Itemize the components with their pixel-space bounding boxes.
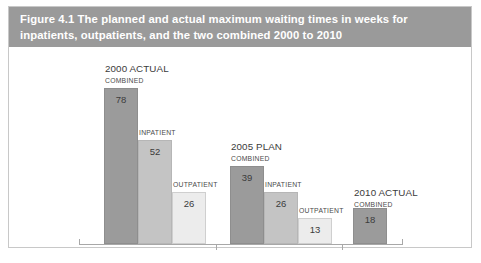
series-label-g1-combined: COMBINED (105, 77, 144, 84)
bar-2000-actual-combined[interactable]: 78 (104, 88, 138, 244)
bar-2010-actual-combined[interactable]: 18 (353, 208, 387, 244)
bar-value-2010-actual-combined: 18 (354, 214, 386, 225)
bar-2005-plan-combined[interactable]: 39 (230, 166, 264, 244)
x-axis-tick-start (79, 239, 80, 244)
figure-frame: Figure 4.1 The planned and actual maximu… (8, 6, 472, 248)
series-label-g2-combined: COMBINED (231, 155, 270, 162)
bar-value-2005-plan-combined: 39 (231, 172, 263, 183)
x-axis-tick-group2-group3 (342, 245, 343, 250)
series-label-g3-combined: COMBINED (354, 201, 393, 208)
x-axis-line (79, 244, 403, 245)
figure-caption-band: Figure 4.1 The planned and actual maximu… (9, 7, 471, 47)
figure-caption-text: Figure 4.1 The planned and actual maximu… (20, 12, 461, 43)
group-label-2010-actual: 2010 ACTUAL (354, 187, 418, 198)
bar-value-2005-plan-inpatient: 26 (265, 198, 297, 209)
bar-value-2000-actual-outpatient: 26 (173, 198, 205, 209)
series-label-g2-inpatient: INPATIENT (265, 181, 302, 188)
series-label-g1-outpatient: OUTPATIENT (173, 181, 218, 188)
x-axis-tick-group1-group2 (216, 245, 217, 250)
bar-value-2000-actual-inpatient: 52 (139, 146, 171, 157)
group-label-2005-plan: 2005 PLAN (231, 141, 282, 152)
series-label-g2-outpatient: OUTPATIENT (299, 207, 344, 214)
bar-value-2000-actual-combined: 78 (105, 94, 137, 105)
bar-2000-actual-outpatient[interactable]: 26 (172, 192, 206, 244)
x-axis-tick-end (402, 239, 403, 244)
bar-value-2005-plan-outpatient: 13 (299, 224, 331, 235)
series-label-g1-inpatient: INPATIENT (139, 129, 176, 136)
bars-container: 2000 ACTUAL COMBINED 78 INPATIENT 52 OUT… (9, 47, 471, 244)
bar-2005-plan-inpatient[interactable]: 26 (264, 192, 298, 244)
chart-plot-area: 2000 ACTUAL COMBINED 78 INPATIENT 52 OUT… (9, 47, 471, 247)
bar-2005-plan-outpatient[interactable]: 13 (298, 218, 332, 244)
bar-2000-actual-inpatient[interactable]: 52 (138, 140, 172, 244)
group-label-2000-actual: 2000 ACTUAL (105, 63, 169, 74)
